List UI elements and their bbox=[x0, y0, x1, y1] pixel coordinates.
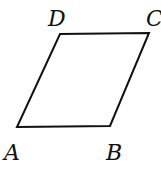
vertex-label-c: C bbox=[146, 6, 161, 31]
vertex-label-a: A bbox=[2, 140, 20, 165]
parallelogram-abcd bbox=[17, 33, 149, 127]
vertex-label-d: D bbox=[47, 6, 66, 31]
vertex-label-b: B bbox=[105, 140, 122, 165]
parallelogram-diagram: D C A B bbox=[0, 0, 161, 183]
